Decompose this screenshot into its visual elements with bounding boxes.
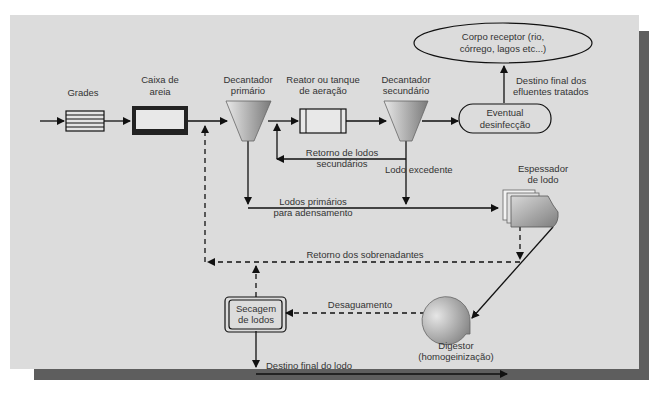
dewatering-label: Desaguamento [328, 299, 392, 310]
digester-node [422, 297, 470, 345]
grades-label: Grades [67, 87, 98, 98]
sludge-drying-label-2: de lodos [238, 314, 274, 325]
secondary-return-label-1: Retorno de lodos [306, 147, 379, 158]
effluent-destination-label-2: efluentes tratados [513, 86, 589, 97]
digester-label-1: Digestor [438, 340, 473, 351]
grades-screen-node [66, 111, 104, 131]
diagram-canvas: Grades Caixa de areia Decantador primári… [0, 0, 654, 401]
secondary-return-label-2: secundários [316, 158, 367, 169]
sludge-drying-label-1: Secagem [236, 303, 276, 314]
disinfection-label-2: desinfecção [480, 119, 531, 130]
aeration-tank-node [300, 109, 346, 133]
sludge-destination-label: Destino final do lodo [266, 360, 352, 371]
receiving-body-label-2: córrego, lagos etc...) [460, 43, 547, 54]
main-flow-edges [40, 66, 553, 374]
grit-chamber-label-1: Caixa de [141, 74, 179, 85]
supernatant-return-label: Retorno dos sobrenadantes [306, 249, 423, 260]
receiving-body-label-1: Corpo receptor (rio, [462, 31, 544, 42]
flowchart-svg: Grades Caixa de areia Decantador primári… [0, 0, 654, 401]
secondary-clarifier-label-1: Decantador [381, 74, 430, 85]
primary-sludge-label-1: Lodos primários [279, 196, 347, 207]
excess-sludge-label: Lodo excedente [385, 164, 453, 175]
secondary-clarifier-label-2: secundário [383, 85, 429, 96]
grit-chamber-node [132, 106, 188, 135]
primary-clarifier-label-2: primário [231, 85, 265, 96]
sludge-thickener-label-1: Espessador [518, 163, 568, 174]
effluent-destination-label-1: Destino final dos [516, 75, 586, 86]
sludge-thickener-node [503, 190, 558, 227]
disinfection-label-1: Eventual [487, 107, 524, 118]
primary-clarifier-label-1: Decantador [223, 74, 272, 85]
primary-clarifier-node [226, 101, 271, 141]
secondary-clarifier-node [384, 101, 428, 141]
aeration-tank-label-2: de aeração [299, 85, 347, 96]
primary-sludge-label-2: para adensamento [273, 207, 352, 218]
sludge-thickener-label-2: de lodo [527, 174, 558, 185]
aeration-tank-label-1: Reator ou tanque [286, 74, 359, 85]
grit-chamber-label-2: areia [149, 86, 171, 97]
digester-label-2: (homogeinização) [418, 351, 494, 362]
